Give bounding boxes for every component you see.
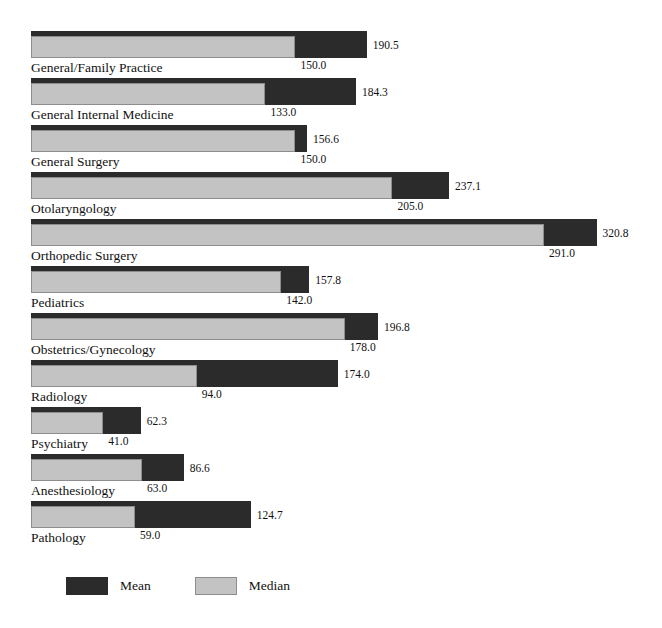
- bar-median: [31, 459, 142, 481]
- bar-value-mean: 124.7: [257, 509, 283, 521]
- legend-item-mean: Mean: [66, 577, 151, 595]
- bar-value-median: 63.0: [147, 482, 167, 494]
- bar-value-median: 150.0: [300, 153, 326, 165]
- bar-group: 156.6150.0General Surgery: [0, 125, 662, 172]
- bar-value-median: 205.0: [397, 200, 423, 212]
- category-label: Radiology: [31, 389, 87, 405]
- bar-value-mean: 196.8: [384, 321, 410, 333]
- bar-value-median: 142.0: [286, 294, 312, 306]
- bar-value-mean: 174.0: [344, 368, 370, 380]
- bar-median: [31, 177, 392, 199]
- bar-pair: [31, 407, 141, 434]
- legend-item-median: Median: [195, 577, 290, 595]
- bar-value-mean: 237.1: [455, 180, 481, 192]
- bar-value-median: 94.0: [202, 388, 222, 400]
- bar-pair: [31, 125, 307, 152]
- category-label: Otolaryngology: [31, 201, 117, 217]
- bar-group: 124.759.0Pathology: [0, 501, 662, 548]
- bar-group: 320.8291.0Orthopedic Surgery: [0, 219, 662, 266]
- bar-pair: [31, 360, 338, 387]
- bar-median: [31, 506, 135, 528]
- bar-pair: [31, 31, 367, 58]
- category-label: General/Family Practice: [31, 60, 163, 76]
- bar-value-median: 133.0: [270, 106, 296, 118]
- bar-value-median: 291.0: [549, 247, 575, 259]
- bar-median: [31, 412, 103, 434]
- category-label: Orthopedic Surgery: [31, 248, 138, 264]
- bar-pair: [31, 78, 356, 105]
- bar-pair: [31, 172, 449, 199]
- category-label: General Internal Medicine: [31, 107, 173, 123]
- bar-median: [31, 224, 544, 246]
- legend-swatch-mean-icon: [66, 577, 108, 595]
- category-label: General Surgery: [31, 154, 120, 170]
- bar-pair: [31, 454, 184, 481]
- legend-spacer: [151, 586, 195, 587]
- bar-value-median: 150.0: [300, 59, 326, 71]
- category-label: Anesthesiology: [31, 483, 115, 499]
- bar-value-mean: 86.6: [190, 462, 210, 474]
- bar-pair: [31, 219, 597, 246]
- bar-value-mean: 184.3: [362, 86, 388, 98]
- bar-group: 174.094.0Radiology: [0, 360, 662, 407]
- bar-value-median: 59.0: [140, 529, 160, 541]
- bar-value-mean: 62.3: [147, 415, 167, 427]
- bar-group: 237.1205.0Otolaryngology: [0, 172, 662, 219]
- bar-group: 86.663.0Anesthesiology: [0, 454, 662, 501]
- category-label: Pediatrics: [31, 295, 84, 311]
- horizontal-bar-chart: 190.5150.0General/Family Practice184.313…: [0, 0, 662, 628]
- bar-median: [31, 36, 295, 58]
- bar-group: 190.5150.0General/Family Practice: [0, 31, 662, 78]
- bar-median: [31, 318, 345, 340]
- bar-value-median: 41.0: [108, 435, 128, 447]
- bar-median: [31, 83, 265, 105]
- chart-legend: Mean Median: [66, 576, 290, 596]
- bar-value-mean: 157.8: [315, 274, 341, 286]
- bar-group: 196.8178.0Obstetrics/Gynecology: [0, 313, 662, 360]
- category-label: Pathology: [31, 530, 86, 546]
- bar-value-mean: 156.6: [313, 133, 339, 145]
- bar-median: [31, 365, 197, 387]
- bar-pair: [31, 313, 378, 340]
- bar-group: 157.8142.0Pediatrics: [0, 266, 662, 313]
- bar-median: [31, 271, 281, 293]
- category-label: Obstetrics/Gynecology: [31, 342, 155, 358]
- bar-median: [31, 130, 295, 152]
- bar-value-median: 178.0: [350, 341, 376, 353]
- legend-swatch-median-icon: [195, 577, 237, 595]
- bar-pair: [31, 266, 309, 293]
- bar-value-mean: 320.8: [603, 227, 629, 239]
- legend-label-median: Median: [249, 578, 290, 594]
- bar-value-mean: 190.5: [373, 39, 399, 51]
- legend-label-mean: Mean: [120, 578, 151, 594]
- bar-group: 184.3133.0General Internal Medicine: [0, 78, 662, 125]
- bar-pair: [31, 501, 251, 528]
- category-label: Psychiatry: [31, 436, 88, 452]
- bar-group: 62.341.0Psychiatry: [0, 407, 662, 454]
